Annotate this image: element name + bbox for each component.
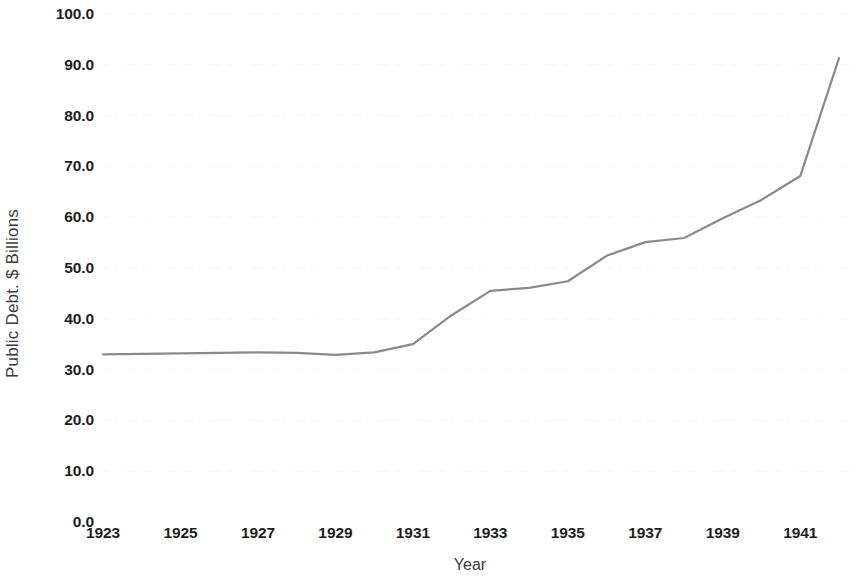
x-tick-label: 1931 <box>378 524 448 542</box>
x-tick-label: 1929 <box>300 524 370 542</box>
y-tick-label: 90.0 <box>18 56 94 74</box>
plot-svg <box>94 8 857 528</box>
x-axis-tick-labels: 1923192519271929193119331935193719391941 <box>0 524 857 548</box>
x-tick-label: 1935 <box>533 524 603 542</box>
x-tick-label: 1939 <box>688 524 758 542</box>
x-tick-label: 1927 <box>223 524 293 542</box>
y-tick-label: 20.0 <box>18 411 94 429</box>
x-axis-title: Year <box>100 556 840 574</box>
plot-area <box>94 8 857 528</box>
data-series-line <box>103 58 839 355</box>
y-tick-label: 60.0 <box>18 208 94 226</box>
x-tick-label: 1925 <box>145 524 215 542</box>
y-tick-label: 50.0 <box>18 259 94 277</box>
y-tick-label: 100.0 <box>18 5 94 23</box>
gridlines <box>100 14 853 471</box>
line-chart: Public Debt. $ Billions 100.090.080.070.… <box>0 0 857 587</box>
x-tick-label: 1923 <box>68 524 138 542</box>
y-tick-label: 40.0 <box>18 310 94 328</box>
x-tick-label: 1933 <box>455 524 525 542</box>
y-axis-tick-labels: 100.090.080.070.060.050.040.030.020.010.… <box>0 0 94 587</box>
y-tick-label: 70.0 <box>18 157 94 175</box>
y-tick-label: 30.0 <box>18 361 94 379</box>
y-tick-label: 80.0 <box>18 107 94 125</box>
x-tick-label: 1937 <box>610 524 680 542</box>
x-tick-label: 1941 <box>765 524 835 542</box>
y-tick-label: 10.0 <box>18 462 94 480</box>
